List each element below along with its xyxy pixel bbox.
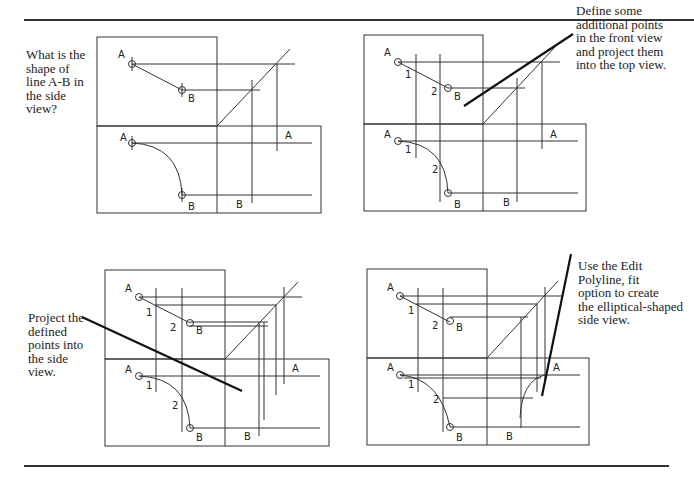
svg-text:A: A — [125, 283, 132, 294]
svg-text:1: 1 — [408, 379, 414, 390]
svg-text:B: B — [503, 197, 510, 208]
svg-text:B: B — [196, 432, 203, 443]
svg-text:B: B — [506, 431, 513, 442]
label-a-front: A — [120, 132, 127, 143]
label-a: A — [118, 49, 125, 60]
svg-text:B: B — [456, 432, 463, 443]
svg-text:A: A — [550, 129, 557, 140]
svg-text:B: B — [454, 199, 461, 210]
panel-3-drawing — [82, 270, 329, 446]
svg-text:A: A — [387, 282, 394, 293]
svg-text:1: 1 — [146, 380, 152, 391]
label-b: B — [188, 93, 195, 104]
svg-text:B: B — [456, 322, 463, 333]
svg-text:A: A — [384, 129, 391, 140]
svg-text:B: B — [196, 325, 203, 336]
svg-text:1: 1 — [146, 307, 152, 318]
svg-text:1: 1 — [405, 144, 411, 155]
svg-text:A: A — [387, 362, 394, 373]
svg-text:2: 2 — [432, 320, 438, 331]
svg-text:2: 2 — [433, 394, 439, 405]
panel-4-drawing — [367, 254, 589, 445]
label-b-front: B — [188, 201, 195, 212]
svg-text:2: 2 — [172, 400, 178, 411]
orthographic-diagrams: A B A B A B A B 1 2 A 1 2 B A B A B 1 2 … — [0, 0, 694, 477]
svg-text:A: A — [553, 362, 560, 373]
panel-1-drawing — [97, 37, 321, 213]
label-a-side: A — [285, 130, 292, 141]
svg-text:A: A — [292, 363, 299, 374]
svg-text:2: 2 — [170, 322, 176, 333]
svg-text:1: 1 — [405, 69, 411, 80]
label-b-side: B — [236, 199, 243, 210]
svg-text:A: A — [384, 47, 391, 58]
svg-text:1: 1 — [408, 305, 414, 316]
svg-text:B: B — [244, 431, 251, 442]
svg-text:A: A — [125, 364, 132, 375]
svg-text:2: 2 — [431, 86, 437, 97]
panel-2-drawing — [364, 34, 586, 211]
svg-text:B: B — [454, 91, 461, 102]
svg-text:2: 2 — [432, 164, 438, 175]
